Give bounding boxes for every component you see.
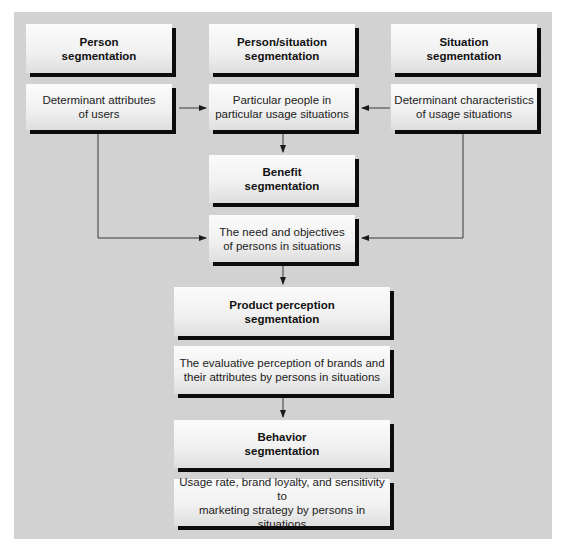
particular-people-text: Particular people in particular usage si… [215,93,349,121]
evaluative-perception-text: The evaluative perception of brands and … [179,356,384,384]
arrow-situation-to-need [362,134,463,238]
user-attributes-box: Determinant attributes of users [26,84,172,130]
situation-segmentation-box: Situation segmentation [391,24,537,73]
particular-people-box: Particular people in particular usage si… [209,84,355,130]
user-attributes-text: Determinant attributes of users [42,93,155,121]
behavior-segmentation-label: Behavior segmentation [245,430,320,458]
benefit-segmentation-box: Benefit segmentation [209,155,355,203]
person-segmentation-label: Person segmentation [62,35,137,63]
person-situation-segmentation-box: Person/situation segmentation [209,24,355,73]
usage-rate-text: Usage rate, brand loyalty, and sensitivi… [174,475,390,531]
needs-objectives-text: The need and objectives of persons in si… [219,225,344,253]
person-situation-segmentation-label: Person/situation segmentation [237,35,327,63]
behavior-segmentation-box: Behavior segmentation [174,420,390,468]
person-segmentation-box: Person segmentation [26,24,172,73]
situation-characteristics-text: Determinant characteristics of usage sit… [394,93,533,121]
evaluative-perception-box: The evaluative perception of brands and … [174,346,390,394]
needs-objectives-box: The need and objectives of persons in si… [209,215,355,262]
usage-rate-box: Usage rate, brand loyalty, and sensitivi… [174,479,390,526]
product-perception-segmentation-label: Product perception segmentation [229,298,334,326]
product-perception-segmentation-box: Product perception segmentation [174,287,390,336]
situation-characteristics-box: Determinant characteristics of usage sit… [391,84,537,130]
arrow-person-to-need [98,134,206,238]
benefit-segmentation-label: Benefit segmentation [245,165,320,193]
situation-segmentation-label: Situation segmentation [427,35,502,63]
